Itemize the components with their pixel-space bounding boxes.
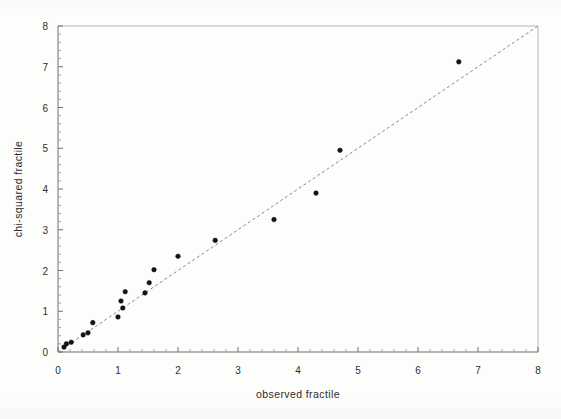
data-point <box>147 280 152 285</box>
data-point <box>338 148 343 153</box>
x-axis-label: observed fractile <box>256 388 340 400</box>
x-tick-label: 6 <box>415 365 421 376</box>
data-point <box>272 217 277 222</box>
data-point <box>213 238 218 243</box>
y-tick-label: 1 <box>42 306 48 317</box>
data-point <box>152 267 157 272</box>
qq-plot-figure: 012345678012345678 observed fractile chi… <box>0 0 561 419</box>
data-point <box>91 320 96 325</box>
scatter-points <box>62 60 461 350</box>
data-point <box>119 299 124 304</box>
x-tick-label: 4 <box>295 365 301 376</box>
x-tick-label: 0 <box>55 365 61 376</box>
x-tick-label: 2 <box>175 365 181 376</box>
chart-page: 012345678012345678 observed fractile chi… <box>0 0 561 419</box>
data-point <box>176 254 181 259</box>
y-tick-label: 2 <box>42 266 48 277</box>
data-point <box>314 191 319 196</box>
data-point <box>121 306 126 311</box>
x-tick-label: 7 <box>475 365 481 376</box>
data-point <box>123 289 128 294</box>
y-tick-label: 8 <box>42 21 48 32</box>
data-point <box>86 331 91 336</box>
y-tick-label: 7 <box>42 62 48 73</box>
y-tick-label: 0 <box>42 347 48 358</box>
x-tick-label: 1 <box>115 365 121 376</box>
y-axis-label: chi-squared fractile <box>12 141 24 238</box>
y-tick-label: 6 <box>42 103 48 114</box>
data-point <box>81 333 86 338</box>
y-tick-label: 4 <box>42 184 48 195</box>
y-tick-label: 5 <box>42 143 48 154</box>
data-point <box>143 291 148 296</box>
y-tick-label: 3 <box>42 225 48 236</box>
x-tick-label: 3 <box>235 365 241 376</box>
data-point <box>116 315 121 320</box>
x-tick-label: 5 <box>355 365 361 376</box>
data-point <box>457 60 462 65</box>
identity-reference-line <box>58 26 538 352</box>
data-point <box>64 342 69 347</box>
x-tick-label: 8 <box>535 365 541 376</box>
data-point <box>69 340 74 345</box>
